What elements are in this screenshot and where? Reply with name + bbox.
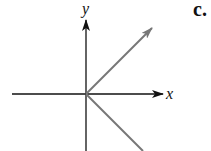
graph-figure: y x c. <box>0 0 211 151</box>
upper-ray <box>86 28 152 94</box>
y-axis-label: y <box>80 0 90 18</box>
part-label: c. <box>193 0 207 20</box>
lower-ray <box>86 94 143 151</box>
x-axis-label: x <box>165 85 173 102</box>
